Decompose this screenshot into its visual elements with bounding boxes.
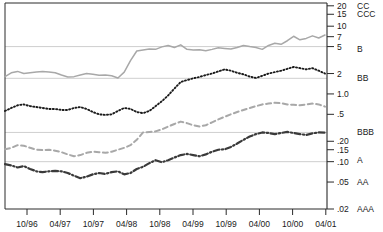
x-tick-label: 10/97 — [83, 219, 105, 229]
y-tick-label: 10 — [337, 21, 347, 31]
data-series — [5, 35, 325, 178]
x-tick-label: 10/99 — [216, 219, 238, 229]
x-tick-label: 04/97 — [50, 219, 72, 229]
rating-label-ccc: CCC — [357, 9, 375, 19]
y-tick-label: .10 — [337, 157, 349, 167]
y-axis-tick-labels: 2015107521.0.5.20.15.10.05.02 — [337, 1, 349, 214]
x-axis — [27, 209, 326, 215]
x-tick-label: 10/00 — [282, 219, 304, 229]
series-line-a — [5, 132, 325, 178]
series-line-bbb — [5, 103, 325, 157]
credit-spread-chart: 2015107521.0.5.20.15.10.05.02 CCCCCBBBBB… — [0, 0, 383, 232]
x-axis-tick-labels: 10/9604/9710/9704/9810/9804/9910/9904/00… — [16, 219, 336, 229]
x-tick-label: 10/96 — [16, 219, 38, 229]
y-tick-label: 2 — [337, 69, 342, 79]
rating-label-a: A — [357, 155, 363, 165]
y-tick-label: 1.0 — [337, 89, 349, 99]
rating-labels: CCCCCBBBBBBAAAAAA — [357, 1, 375, 214]
x-tick-label: 04/99 — [182, 219, 204, 229]
y-tick-label: 5 — [337, 42, 342, 52]
y-tick-label: .5 — [337, 109, 344, 119]
rating-label-aaa: AAA — [357, 204, 374, 214]
y-tick-label: .02 — [337, 204, 349, 214]
rating-label-bb: BB — [357, 73, 369, 83]
plot-frame — [5, 3, 327, 209]
rating-label-b: B — [357, 44, 363, 54]
x-tick-label: 10/98 — [149, 219, 171, 229]
x-tick-label: 04/01 — [315, 219, 337, 229]
gridlines — [5, 47, 327, 162]
x-tick-label: 04/98 — [116, 219, 138, 229]
rating-label-aa: AA — [357, 177, 369, 187]
y-tick-label: 7 — [337, 32, 342, 42]
y-tick-label: .05 — [337, 177, 349, 187]
series-line-bb — [5, 67, 325, 115]
chart-container: 2015107521.0.5.20.15.10.05.02 CCCCCBBBBB… — [0, 0, 383, 232]
y-tick-label: .15 — [337, 145, 349, 155]
y-tick-label: 15 — [337, 9, 347, 19]
y-axis — [327, 3, 334, 209]
rating-label-bbb: BBB — [357, 127, 374, 137]
x-tick-label: 04/00 — [249, 219, 271, 229]
